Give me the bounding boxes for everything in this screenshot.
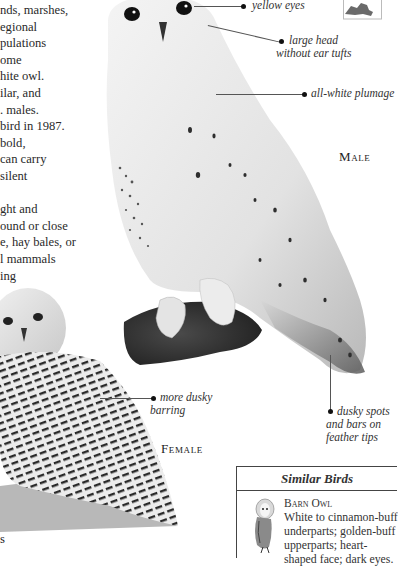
label-large-head-2: without ear tufts bbox=[276, 47, 351, 60]
barn-owl-thumbnail bbox=[247, 497, 277, 553]
label-dusky-spots-3: feather tips bbox=[326, 431, 378, 444]
label-more-dusky-barring-2: barring bbox=[150, 404, 185, 417]
label-dusky-spots-2: and bars on bbox=[326, 418, 381, 431]
leader-dot bbox=[279, 39, 284, 44]
leader-dot bbox=[302, 92, 307, 97]
label-yellow-eyes: yellow eyes bbox=[252, 0, 305, 12]
description-line: shaped face; dark eyes. bbox=[284, 552, 398, 566]
description-line: White to cinnamon-buff bbox=[284, 510, 398, 524]
leader-dot bbox=[151, 396, 156, 401]
caption-female: Female bbox=[161, 441, 203, 457]
leader-line bbox=[216, 94, 303, 95]
description-line: upperparts; heart- bbox=[284, 538, 398, 552]
caption-male: Male bbox=[339, 149, 370, 165]
label-more-dusky-barring: more dusky bbox=[160, 391, 212, 404]
similar-bird-name: Barn Owl bbox=[284, 496, 398, 510]
similar-birds-panel: Similar Birds Barn Owl White to cinnamon… bbox=[236, 466, 397, 558]
label-large-head: large head bbox=[289, 34, 338, 47]
label-dusky-spots: dusky spots bbox=[337, 405, 390, 418]
barn-owl-description: Barn Owl White to cinnamon-buff underpar… bbox=[284, 496, 398, 566]
leader-line bbox=[194, 6, 242, 7]
label-all-white-plumage: all-white plumage bbox=[311, 87, 394, 100]
leader-dot bbox=[241, 4, 246, 9]
similar-birds-title: Similar Birds bbox=[237, 467, 397, 491]
leader-line bbox=[330, 355, 331, 410]
description-line: underparts; golden-buff bbox=[284, 524, 398, 538]
leader-dot bbox=[328, 409, 333, 414]
leader-line bbox=[100, 398, 153, 399]
